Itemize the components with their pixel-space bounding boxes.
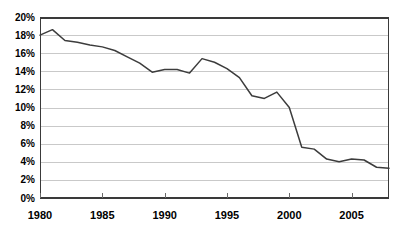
x-tick-label: 1980 [28,209,52,221]
y-tick-label: 18% [15,30,35,41]
x-tick-label: 1995 [215,209,239,221]
y-tick-label: 8% [21,120,36,131]
y-tick-label: 16% [15,48,35,59]
x-tick-label: 2005 [339,209,363,221]
y-tick-label: 6% [21,138,36,149]
y-tick-label: 4% [21,156,36,167]
x-tick-label: 2000 [277,209,301,221]
x-axis-tick-labels: 198019851990199520002005 [28,209,364,221]
chart-container: 0%2%4%6%8%10%12%14%16%18%20% 19801985199… [0,0,404,232]
x-tick-label: 1990 [152,209,176,221]
line-chart: 0%2%4%6%8%10%12%14%16%18%20% 19801985199… [0,0,404,232]
y-tick-label: 12% [15,84,35,95]
plot-background [40,17,389,198]
y-tick-label: 20% [15,12,35,23]
y-axis-tick-labels: 0%2%4%6%8%10%12%14%16%18%20% [15,12,35,204]
y-tick-label: 10% [15,102,35,113]
y-tick-label: 0% [21,193,36,204]
y-tick-label: 2% [21,174,36,185]
y-tick-label: 14% [15,66,35,77]
x-tick-label: 1985 [90,209,114,221]
